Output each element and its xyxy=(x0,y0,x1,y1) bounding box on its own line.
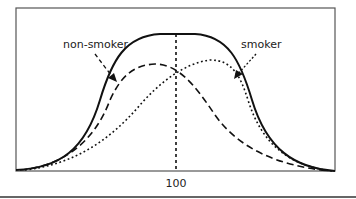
x-tick-100: 100 xyxy=(166,177,187,190)
smoker-curve xyxy=(25,60,332,171)
non-smoker-label: non-smoker xyxy=(63,38,129,51)
non-smoker-arrow xyxy=(95,54,114,79)
non-smoker-curve xyxy=(20,64,330,171)
distribution-diagram: non-smoker smoker 100 xyxy=(0,0,356,199)
smoker-arrow xyxy=(237,54,256,75)
smoker-label: smoker xyxy=(241,38,282,51)
